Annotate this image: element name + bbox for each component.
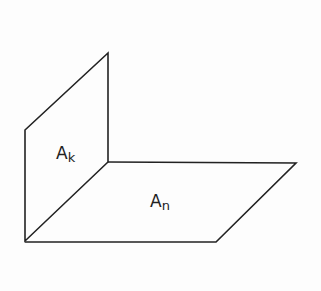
vertical-plane-label: Ak: [56, 143, 75, 163]
planes-drawing: [0, 0, 321, 291]
diagram-canvas: Ak An: [0, 0, 321, 291]
horizontal-plane-label: An: [150, 191, 170, 211]
